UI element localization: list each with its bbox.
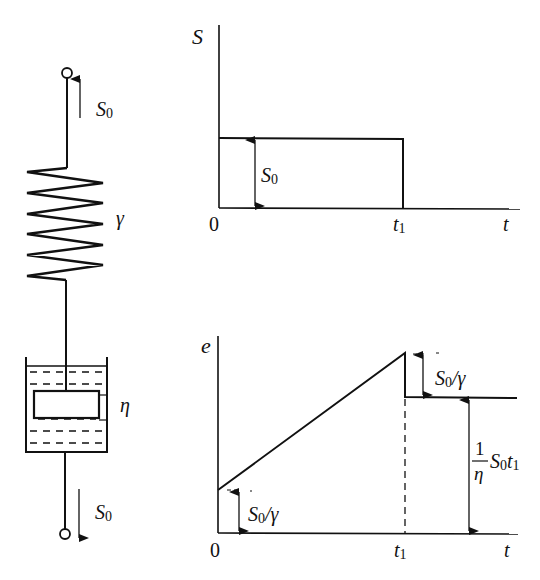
stress-t1-label: t1 [393,213,406,236]
strain-t1-label: t1 [394,539,407,562]
stress-axis-label: S [192,24,203,49]
stress-t-axis-label: t [503,213,509,235]
stress-curve [219,138,403,208]
stress-chart: S S0 0 t1 t [192,24,520,236]
bottom-force-label: S0 [95,501,112,524]
stress-x-axis [219,208,520,209]
fraction-numerator: 1 [475,438,485,459]
stress-origin-label: 0 [209,213,219,235]
S0-label: S0 [261,164,278,187]
top-terminal-icon [62,68,72,78]
bottom-terminal-icon [60,529,70,539]
recovery-elastic-label: S0/γ [435,367,467,390]
maxwell-model-figure: S0 γ η S0 S S0 0 t1 t e S0/γ S0/γ 1 [0,0,540,580]
maxwell-model [26,68,107,539]
viscous-strain-label: 1 η S0t1 [472,438,520,484]
strain-axis-label: e [201,333,211,358]
fraction-denominator: η [474,463,483,484]
strain-curve [218,353,517,490]
spring-icon [27,168,103,280]
spring-constant-label: γ [116,207,125,230]
S0t1-term: S0t1 [490,450,520,473]
viscosity-label: η [120,394,130,417]
strain-origin-label: 0 [210,539,220,561]
top-force-label: S0 [96,98,113,121]
strain-chart: e S0/γ S0/γ 1 η S0t1 0 t1 t [201,333,520,562]
strain-x-axis [218,533,518,534]
initial-elastic-label: S0/γ [248,503,280,526]
strain-t-axis-label: t [504,539,510,561]
